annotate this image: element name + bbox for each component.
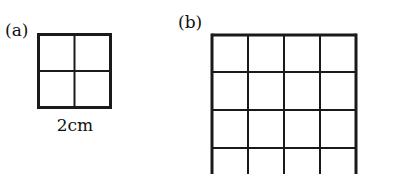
grid-b (212, 34, 356, 175)
grid-drawings (0, 0, 412, 174)
grid-a (39, 35, 111, 108)
